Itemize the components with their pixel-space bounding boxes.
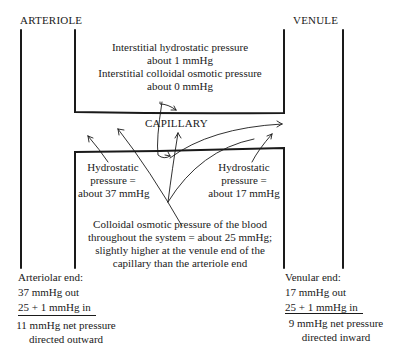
blood-osmotic-line1: Colloidal osmotic pressure of the blood xyxy=(78,218,282,231)
interstitial-osmotic-value: about 0 mmHg xyxy=(80,80,280,93)
capillary-label: CAPILLARY xyxy=(145,117,208,130)
venular-end-direction: directed inward xyxy=(284,331,388,344)
blood-osmotic-line4: capillary than the arteriole end xyxy=(78,257,282,270)
arterial-hydrostatic-value: about 37 mmHg xyxy=(78,187,148,200)
blood-osmotic-line3: slightly higher at the venule end of the xyxy=(78,244,282,257)
arteriolar-end-net: 11 mmHg net pressure xyxy=(14,319,118,332)
arteriolar-end-title: Arteriolar end: xyxy=(18,271,83,284)
venular-end-title: Venular end: xyxy=(285,271,341,284)
venous-hydrostatic-line2: pressure = xyxy=(206,174,282,187)
venule-label: VENULE xyxy=(293,14,338,27)
blood-osmotic-line2: throughout the system = about 25 mmHg; xyxy=(78,231,282,244)
venous-hydrostatic-line1: Hydrostatic xyxy=(206,161,282,174)
interstitial-osmotic-label: Interstitial colloidal osmotic pressure xyxy=(80,67,280,80)
interstitial-hydrostatic-value: about 1 mmHg xyxy=(80,54,280,67)
arteriolar-end-in: 25 + 1 mmHg in xyxy=(18,301,91,314)
venous-hydrostatic-value: about 17 mmHg xyxy=(206,187,282,200)
arrow-arterial-hydro-1 xyxy=(88,136,108,162)
arteriolar-end-direction: directed outward xyxy=(14,333,118,346)
arteriolar-sum-line xyxy=(18,315,96,316)
venular-end-net: 9 mmHg net pressure xyxy=(284,317,388,330)
venular-end-out: 17 mmHg out xyxy=(285,286,346,299)
arterial-hydrostatic-line1: Hydrostatic xyxy=(78,161,148,174)
arterial-hydrostatic-line2: pressure = xyxy=(78,174,148,187)
arteriolar-end-out: 37 mmHg out xyxy=(18,286,79,299)
arrow-blood-osmotic-mid xyxy=(168,133,178,202)
arteriole-label: ARTERIOLE xyxy=(20,14,82,27)
venular-sum-line xyxy=(285,313,363,314)
interstitial-hydrostatic-label: Interstitial hydrostatic pressure xyxy=(80,41,280,54)
